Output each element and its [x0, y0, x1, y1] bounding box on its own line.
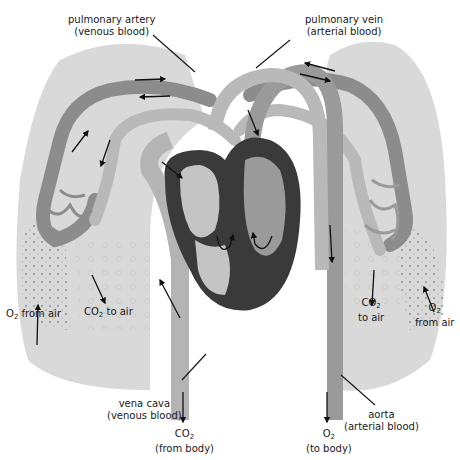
right-lung: [326, 42, 447, 391]
right-co2-to-air-label: CO2 to air: [358, 297, 384, 324]
left-o2-from-air-label: O2 from air: [6, 308, 61, 323]
co2-from-body-label: CO2 (from body): [155, 428, 214, 455]
aorta-label: aorta (arterial blood): [344, 409, 419, 433]
left-co2-to-air-label: CO2 to air: [84, 306, 133, 321]
pulmonary-artery-label: pulmonary artery (venous blood): [68, 14, 155, 38]
pulmonary-vein-label: pulmonary vein (arterial blood): [305, 14, 383, 38]
o2-to-body-label: O2 (to body): [306, 428, 352, 455]
right-o2-from-air-label: O2 from air: [415, 302, 454, 329]
vena-cava-label: vena cava (venous blood): [107, 398, 182, 422]
circulation-diagram: [0, 0, 460, 460]
